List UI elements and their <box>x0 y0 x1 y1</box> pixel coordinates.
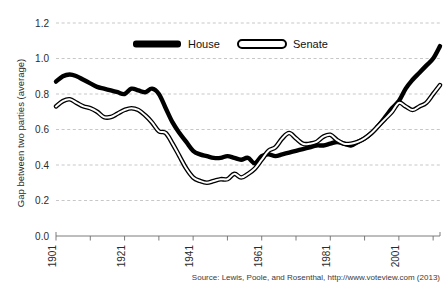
chart-background <box>0 0 448 294</box>
y-tick-label: 0.6 <box>35 124 49 135</box>
x-tick-label: 1941 <box>184 245 195 268</box>
y-tick-label: 1.0 <box>35 53 49 64</box>
legend-swatch-senate <box>238 40 286 48</box>
legend-item-senate[interactable]: Senate <box>238 38 328 50</box>
line-chart: 0.00.20.40.60.81.01.2 190119211941196119… <box>0 0 448 294</box>
legend-label: Senate <box>293 38 328 50</box>
x-tick-label: 1901 <box>47 245 58 268</box>
y-tick-label: 0.8 <box>35 89 49 100</box>
source-note: Source: Lewis, Poole, and Rosenthal, htt… <box>192 273 440 282</box>
x-tick-label: 1981 <box>321 245 332 268</box>
y-tick-label: 0.0 <box>35 231 49 242</box>
y-tick-label: 0.4 <box>35 160 49 171</box>
legend-swatch-house <box>133 40 181 47</box>
x-tick-label: 1961 <box>253 245 264 268</box>
x-tick-label: 1921 <box>116 245 127 268</box>
y-tick-label: 1.2 <box>35 18 49 29</box>
chart-figure: 0.00.20.40.60.81.01.2 190119211941196119… <box>0 0 448 294</box>
y-tick-label: 0.2 <box>35 195 49 206</box>
y-axis-title: Gap between two parties (average) <box>15 59 26 207</box>
x-tick-label: 2001 <box>390 245 401 268</box>
legend-label: House <box>188 38 220 50</box>
